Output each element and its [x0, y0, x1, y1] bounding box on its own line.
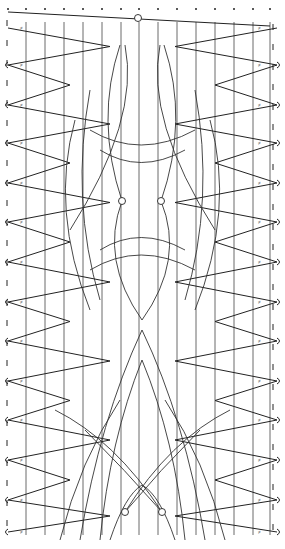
left-diagonal: [8, 105, 110, 124]
edge-loop: [277, 457, 280, 463]
edge-loop: [277, 140, 280, 146]
pin-dot: [176, 8, 178, 10]
pin-dot: [195, 8, 197, 10]
top-pin-icon: [135, 15, 142, 22]
edge-loop: [277, 180, 280, 186]
tick-mark: ≠: [258, 102, 261, 108]
pin-dot: [120, 8, 122, 10]
crossing-thread: [65, 120, 90, 310]
right-diagonal: [175, 361, 277, 381]
left-diagonal: [8, 381, 70, 401]
left-diagonal: [8, 203, 110, 223]
right-diagonal: [175, 105, 277, 124]
tick-mark: ≠: [20, 62, 23, 68]
tick-mark: ≠: [20, 102, 23, 108]
left-diagonal: [8, 302, 70, 322]
left-diagonal: [8, 143, 70, 163]
crossing-thread: [90, 255, 195, 270]
right-diagonal: [175, 420, 277, 440]
tick-mark: ≠: [20, 140, 23, 146]
left-diagonal: [8, 341, 110, 361]
tick-mark: ≠: [20, 338, 23, 344]
tick-mark: ≠: [258, 529, 261, 535]
tick-mark: ≠: [20, 259, 23, 265]
edge-loop: [277, 529, 280, 535]
tick-mark: ≠: [258, 140, 261, 146]
right-diagonal: [215, 143, 277, 163]
lace-pricking-diagram: ≠≠≠≠≠≠≠≠≠≠≠≠≠≠≠≠≠≠≠≠≠≠≠≠≠≠≠≠: [0, 0, 285, 549]
tick-mark: ≠: [20, 180, 23, 186]
tick-mark: ≠: [258, 497, 261, 503]
left-diagonal: [8, 480, 70, 500]
right-diagonal: [175, 28, 277, 47]
left-diagonal: [8, 460, 70, 480]
left-diagonal: [8, 401, 70, 421]
edge-loop: [277, 378, 280, 384]
tick-mark: ≠: [20, 299, 23, 305]
left-diagonal: [8, 322, 70, 342]
tick-mark: ≠: [20, 529, 23, 535]
pin-dot: [63, 8, 65, 10]
left-diagonal: [8, 85, 70, 105]
right-diagonal: [215, 401, 277, 421]
crossing-thread: [108, 45, 122, 201]
pin-dot: [25, 8, 27, 10]
right-diagonal: [215, 242, 277, 262]
left-diagonal: [8, 242, 70, 262]
right-diagonal: [215, 222, 277, 242]
right-diagonal: [175, 203, 277, 223]
pin-dot: [269, 8, 271, 10]
edge-loop: [277, 417, 280, 423]
tick-mark: ≠: [20, 417, 23, 423]
left-diagonal: [8, 500, 110, 516]
right-diagonal: [215, 480, 277, 500]
right-diagonal: [215, 163, 277, 183]
crossing-thread: [157, 45, 215, 230]
left-diagonal: [8, 420, 110, 440]
tick-mark: ≠: [258, 417, 261, 423]
mid-left-pin-icon: [119, 198, 126, 205]
right-diagonal: [175, 341, 277, 361]
tick-mark: ≠: [20, 457, 23, 463]
crossing-thread: [142, 201, 170, 320]
edge-loop: [277, 299, 280, 305]
tick-mark: ≠: [258, 180, 261, 186]
pin-dot: [82, 8, 84, 10]
tick-mark: ≠: [258, 457, 261, 463]
pin-dot: [214, 8, 216, 10]
pin-dot: [101, 8, 103, 10]
tick-mark: ≠: [258, 338, 261, 344]
tick-mark: ≠: [258, 62, 261, 68]
pin-dot: [252, 8, 254, 10]
right-diagonal: [175, 47, 277, 66]
right-diagonal: [215, 381, 277, 401]
mid-right-pin-icon: [158, 198, 165, 205]
right-diagonal: [215, 302, 277, 322]
bottom-right-pin-icon: [159, 509, 166, 516]
crossing-thread: [55, 410, 162, 512]
right-diagonal: [175, 183, 277, 203]
left-diagonal: [8, 47, 110, 66]
crossing-thread: [100, 238, 185, 251]
left-diagonal: [8, 163, 70, 183]
right-diagonal: [215, 460, 277, 480]
crossing-thread: [195, 120, 220, 310]
right-diagonal: [175, 124, 277, 143]
left-diagonal: [8, 124, 110, 143]
pin-dot: [7, 8, 9, 10]
pin-dot: [157, 8, 159, 10]
crossing-thread: [161, 45, 176, 201]
edge-loop: [277, 338, 280, 344]
pin-dot: [138, 8, 140, 10]
tick-mark: ≠: [258, 299, 261, 305]
right-diagonal: [215, 65, 277, 85]
right-diagonal: [215, 322, 277, 342]
crossing-thread: [125, 410, 230, 512]
tick-mark: ≠: [258, 25, 261, 31]
edge-loop: [277, 259, 280, 265]
tick-mark: ≠: [258, 219, 261, 225]
crossing-thread: [100, 150, 185, 163]
left-diagonal: [8, 65, 70, 85]
left-diagonal: [8, 28, 110, 47]
tick-mark: ≠: [20, 25, 23, 31]
